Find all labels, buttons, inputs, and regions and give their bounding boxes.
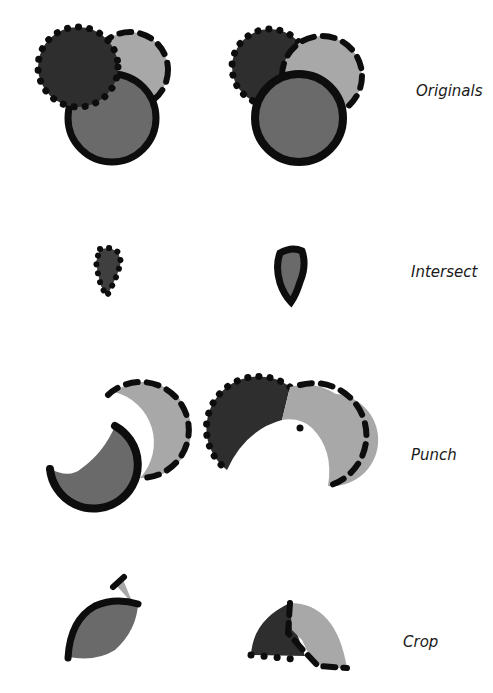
crop-left-shape: [68, 577, 138, 658]
crop-right-shape: [251, 603, 347, 668]
row-label-originals: Originals: [416, 82, 483, 100]
row-label-crop: Crop: [403, 633, 438, 651]
punch-right-shape: [206, 376, 378, 486]
row-label-intersect: Intersect: [411, 263, 477, 281]
originals-right-group: [232, 29, 362, 162]
diagram-canvas: [0, 0, 493, 693]
medium-solid-circle: [255, 74, 343, 162]
intersect-left-shape: [96, 248, 121, 296]
punch-left-shape: [50, 382, 191, 509]
dark-dotted-circle: [38, 27, 118, 107]
row-label-punch: Punch: [411, 446, 457, 464]
intersect-right-shape: [278, 249, 305, 302]
originals-left-group: [38, 27, 168, 162]
